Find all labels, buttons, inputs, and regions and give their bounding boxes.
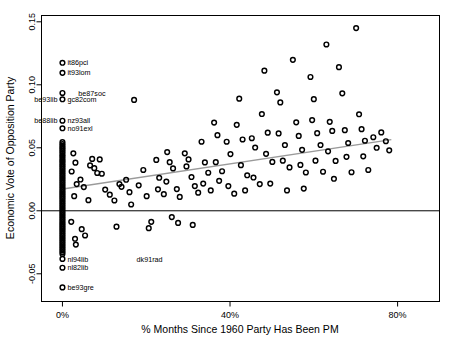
y-tick-label: 0.15 bbox=[27, 13, 37, 31]
point-label: be88lib bbox=[34, 116, 57, 125]
y-axis-title: Economic Vote of Opposition Party bbox=[4, 76, 16, 239]
scatter-plot-figure: it86pciit93lombe87socgc82combe93libnz93a… bbox=[0, 0, 456, 343]
point-label: be93gre bbox=[67, 283, 93, 292]
point-label: no91exl bbox=[67, 124, 93, 133]
x-axis-title: % Months Since 1960 Party Has Been PM bbox=[141, 323, 338, 335]
x-tick-label: 40% bbox=[221, 310, 239, 320]
point-label: it93lom bbox=[67, 68, 90, 77]
point-label: nl82lib bbox=[67, 263, 88, 272]
x-tick-label: 0% bbox=[56, 310, 69, 320]
y-tick-label: 0.10 bbox=[27, 76, 37, 94]
point-label: be93lib bbox=[34, 95, 57, 104]
scatter-plot-svg: it86pciit93lombe87socgc82combe93libnz93a… bbox=[0, 0, 456, 343]
point-label: gc82com bbox=[67, 95, 96, 104]
y-tick-label: 0.00 bbox=[27, 202, 37, 220]
point-label: it86pci bbox=[67, 58, 88, 67]
x-tick-label: 80% bbox=[389, 310, 407, 320]
y-tick-label: 0.05 bbox=[27, 139, 37, 157]
y-tick-label: -0.05 bbox=[27, 264, 37, 285]
point-label: dk91rad bbox=[137, 255, 163, 264]
point-label: nl94lib bbox=[67, 255, 88, 264]
